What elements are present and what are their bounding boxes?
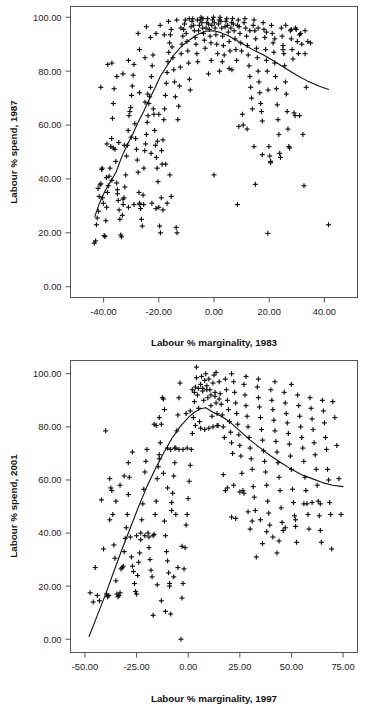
data-point [135,573,140,578]
data-point [305,512,310,517]
data-point [107,476,112,481]
data-point [142,148,147,153]
data-point [165,70,170,75]
data-point [248,527,253,532]
data-point [205,395,210,400]
data-point [186,61,191,66]
data-point [102,233,107,238]
data-point [126,128,131,133]
data-point [175,117,180,122]
data-point [259,427,264,432]
data-point [144,24,149,29]
data-point [269,23,274,28]
axis-tick-labels-top: -40.00-20.000.0020.0040.000.0020.0040.00… [33,13,336,317]
data-point [313,452,318,457]
data-point [156,112,161,117]
data-point [329,546,334,551]
data-point [169,508,174,513]
data-point [155,582,160,587]
data-point [165,201,170,206]
data-point [157,415,162,420]
data-point [181,581,186,586]
data-point [273,439,278,444]
data-point [283,79,288,84]
data-point [126,492,131,497]
data-point [320,398,325,403]
data-point [228,26,233,31]
data-point [227,39,232,44]
data-point [163,533,168,538]
data-point [278,155,283,160]
data-point [290,57,295,62]
data-point [249,96,254,101]
data-point [274,550,279,555]
data-point [155,166,160,171]
data-point [136,31,141,36]
data-point [282,390,287,395]
data-point [154,499,159,504]
data-point [116,140,121,145]
data-point [324,447,329,452]
y-axis-title-top: Labour % spend, 1987 [8,100,19,204]
data-point [297,414,302,419]
data-point [151,613,156,618]
data-point [315,483,320,488]
data-point [103,218,108,223]
data-point [317,513,322,518]
data-point [299,435,304,440]
data-point [184,31,189,36]
data-point [319,540,324,545]
data-point [278,488,283,493]
data-point [241,382,246,387]
data-point [206,71,211,76]
data-point [231,379,236,384]
data-point [165,558,170,563]
data-point [323,435,328,440]
data-point [270,535,275,540]
x-tick-label: -25.00 [123,662,149,672]
data-point [217,379,222,384]
data-point [168,612,173,617]
data-point [142,469,147,474]
x-tick-label: 50.00 [280,662,303,672]
data-point [107,166,112,171]
data-point [267,523,272,528]
data-point [276,117,281,122]
data-point [158,440,163,445]
data-point [165,485,170,490]
data-point [167,172,172,177]
data-point [126,205,131,210]
data-point [217,396,222,401]
data-point [274,86,279,91]
data-point [114,74,119,79]
chart-svg-bottom: -50.00-25.000.0025.0050.0075.000.0020.00… [0,354,375,708]
data-point [113,578,118,583]
data-point [137,47,142,52]
data-point [235,202,240,207]
data-point [312,440,317,445]
y-tick-label: 0.00 [43,635,61,645]
y-tick-label: 100.00 [33,13,61,23]
data-point [212,172,217,177]
data-point [251,23,256,28]
data-point [149,151,154,156]
data-point [257,90,262,95]
data-point [262,459,267,464]
data-point [273,74,278,79]
data-point [164,81,169,86]
data-point [256,26,261,31]
data-point [102,234,107,239]
data-point [175,565,180,570]
data-point [240,112,245,117]
data-point [290,47,295,52]
data-point [110,512,115,517]
data-point [122,473,127,478]
data-point [250,106,255,111]
data-point [334,443,339,448]
y-tick-label: 60.00 [38,475,61,485]
data-point [149,568,154,573]
data-point [284,411,289,416]
data-point [255,55,260,60]
data-point [311,427,316,432]
data-point [247,74,252,79]
